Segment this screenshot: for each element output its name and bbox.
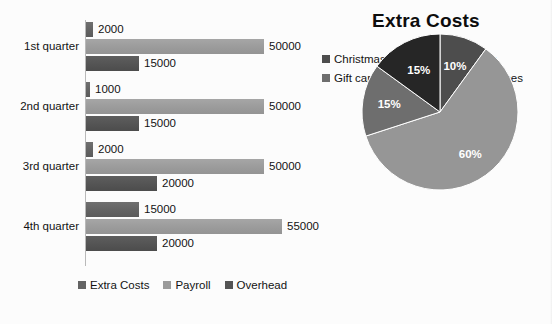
pie-svg: 10%60%15%15% — [360, 32, 520, 192]
bar-extra — [86, 22, 93, 37]
bar-series-row: 2000 — [86, 22, 153, 37]
bar-series-row: 20000 — [86, 176, 217, 191]
bar-category-group: 2nd quarter10005000015000 — [0, 80, 300, 140]
bar-series-row: 20000 — [86, 236, 217, 251]
bar-series-row: 50000 — [86, 39, 324, 54]
bar-value-label: 50000 — [269, 99, 301, 114]
bar-extra — [86, 142, 93, 157]
pie-slice-label: 15% — [378, 98, 401, 110]
bar-category-group: 1st quarter20005000015000 — [0, 20, 300, 80]
pie-graphic: 10%60%15%15% — [360, 32, 520, 192]
legend-label: Overhead — [237, 279, 288, 291]
bar-payroll — [86, 219, 282, 234]
bar-value-label: 15000 — [144, 56, 176, 71]
pie-slice-label: 60% — [459, 148, 482, 160]
bar-chart: 1st quarter200050000150002nd quarter1000… — [0, 0, 300, 324]
bar-extra — [86, 202, 139, 217]
bar-series-row: 50000 — [86, 159, 324, 174]
bar-value-label: 2000 — [98, 22, 124, 37]
bar-overhead — [86, 176, 157, 191]
bar-overhead — [86, 116, 139, 131]
bar-series-row: 1000 — [86, 82, 150, 97]
bar-payroll — [86, 39, 264, 54]
pie-chart-title: Extra Costs — [300, 10, 552, 32]
pie-slice-label: 10% — [443, 60, 466, 72]
chart-page: 1st quarter200050000150002nd quarter1000… — [0, 0, 552, 324]
legend-swatch-icon — [322, 55, 330, 63]
legend-swatch-icon — [163, 281, 171, 289]
category-axis-label: 2nd quarter — [0, 100, 79, 113]
bar-value-label: 15000 — [144, 116, 176, 131]
pie-chart: Extra Costs Christmas partyBonusesGift c… — [300, 0, 552, 324]
bar-series-row: 15000 — [86, 56, 199, 71]
bar-series-row: 50000 — [86, 99, 324, 114]
legend-label: Payroll — [175, 279, 210, 291]
bar-payroll — [86, 159, 264, 174]
bar-category-group: 4th quarter150005500020000 — [0, 200, 300, 260]
legend-item: Extra Costs — [78, 279, 149, 291]
bar-overhead — [86, 56, 139, 71]
category-axis-label: 1st quarter — [0, 40, 79, 53]
bar-value-label: 50000 — [269, 159, 301, 174]
bar-value-label: 50000 — [269, 39, 301, 54]
bar-series-row: 2000 — [86, 142, 153, 157]
legend-swatch-icon — [225, 281, 233, 289]
legend-label: Extra Costs — [90, 279, 149, 291]
legend-swatch-icon — [322, 74, 330, 82]
category-axis-label: 3rd quarter — [0, 160, 79, 173]
bar-chart-legend: Extra CostsPayrollOverhead — [78, 279, 278, 291]
bar-value-label: 20000 — [162, 236, 194, 251]
bar-value-label: 2000 — [98, 142, 124, 157]
bar-extra — [86, 82, 90, 97]
legend-item: Payroll — [163, 279, 210, 291]
legend-swatch-icon — [78, 281, 86, 289]
category-axis-label: 4th quarter — [0, 220, 79, 233]
bar-value-label: 15000 — [144, 202, 176, 217]
bar-series-row: 15000 — [86, 202, 199, 217]
pie-slice-label: 15% — [407, 64, 430, 76]
bar-value-label: 1000 — [95, 82, 121, 97]
legend-item: Overhead — [225, 279, 288, 291]
bar-value-label: 20000 — [162, 176, 194, 191]
bar-category-group: 3rd quarter20005000020000 — [0, 140, 300, 200]
bar-payroll — [86, 99, 264, 114]
bar-series-row: 15000 — [86, 116, 199, 131]
bar-plot-area: 1st quarter200050000150002nd quarter1000… — [0, 14, 300, 272]
bar-overhead — [86, 236, 157, 251]
